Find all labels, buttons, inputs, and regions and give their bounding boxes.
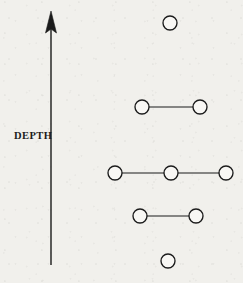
depth-diagram-figure: DEPTH [0, 0, 243, 283]
data-point-marker [193, 100, 207, 114]
data-point-marker [135, 100, 149, 114]
data-point-marker [161, 254, 175, 268]
data-point-marker [108, 166, 122, 180]
depth-axis-label: DEPTH [14, 131, 52, 142]
marker-connectors [122, 107, 219, 216]
data-point-marker [163, 16, 177, 30]
data-point-marker [133, 209, 147, 223]
data-point-marker [219, 166, 233, 180]
data-point-marker [189, 209, 203, 223]
depth-diagram-canvas [0, 0, 243, 283]
marker-group [108, 16, 233, 268]
data-point-marker [164, 166, 178, 180]
